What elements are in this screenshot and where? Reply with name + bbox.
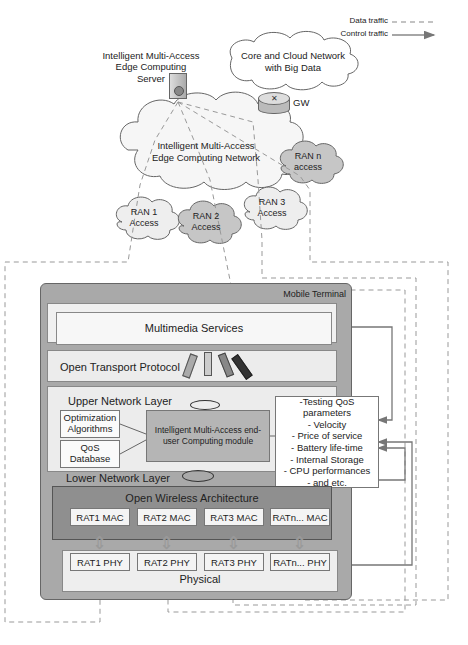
qos-param: - Price of service — [292, 430, 363, 442]
mac-phy-arrow-3: ⇕ — [226, 533, 240, 553]
qos-param: - Battery life-time — [291, 442, 363, 454]
qos-param: - Velocity — [308, 419, 347, 431]
ratn-mac: RATn... MAC — [270, 508, 330, 526]
qos-parameters-box: -Testing QoS parameters - Velocity - Pri… — [275, 396, 379, 488]
mac-phy-arrow-2: ⇕ — [159, 533, 173, 553]
rat2-mac: RAT2 MAC — [137, 508, 197, 526]
qos-param: - Internal Storage — [290, 454, 363, 466]
rat2-phy: RAT2 PHY — [137, 553, 197, 571]
rat3-mac: RAT3 MAC — [204, 508, 264, 526]
physical-label: Physical — [62, 573, 338, 586]
ratn-phy: RATn... PHY — [270, 553, 330, 571]
lower-network-label: Lower Network Layer — [66, 472, 170, 485]
qos-param: - CPU performances — [284, 465, 371, 477]
owa-label: Open Wireless Architecture — [52, 492, 332, 505]
rat3-phy: RAT3 PHY — [204, 553, 264, 571]
lower-aggregation-ellipse — [182, 470, 214, 482]
rat1-phy: RAT1 PHY — [70, 553, 130, 571]
qos-param: -Testing QoS parameters — [276, 396, 378, 419]
rat1-mac: RAT1 MAC — [70, 508, 130, 526]
mac-phy-arrow-1: ⇕ — [92, 533, 106, 553]
mac-phy-arrow-4: ⇕ — [292, 533, 306, 553]
